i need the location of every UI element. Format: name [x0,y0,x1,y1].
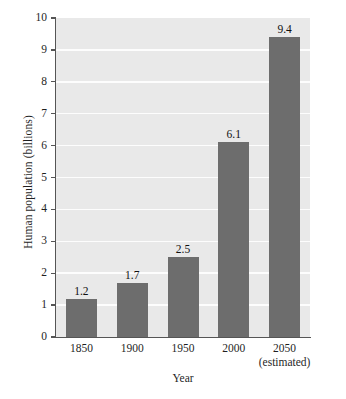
bar-value-label: 6.1 [207,128,261,140]
y-tick-label: 9 [7,44,47,56]
bar [117,283,148,337]
x-tick-label-text: 1850 [70,342,93,354]
x-tick-label-text: 2050 [273,342,296,354]
population-bar-chart-figure: Human population (billions) 012345678910… [0,0,346,399]
y-tick-label: 7 [7,108,47,120]
y-tick-label: 1 [7,299,47,311]
x-tick-label-text: 1950 [172,342,195,354]
y-tick-label: 5 [7,172,47,184]
x-axis-line [55,337,311,338]
y-tick-label: 4 [7,203,47,215]
bar [269,37,300,337]
y-tick-label: 3 [7,235,47,247]
y-tick-label: 8 [7,76,47,88]
y-tick-label: 0 [7,331,47,343]
bar [66,299,97,337]
bar [168,257,199,337]
bar-value-label: 9.4 [258,23,312,35]
y-tick-label: 6 [7,140,47,152]
x-axis-title: Year [56,372,310,384]
x-tick-label-text: 2000 [222,342,245,354]
x-tick-sublabel-text: (estimated) [250,355,320,369]
bar [218,142,249,337]
bar-value-label: 2.5 [156,243,210,255]
x-tick-label: 2050(estimated) [250,342,320,369]
y-tick-label: 2 [7,267,47,279]
bar-value-label: 1.2 [54,285,108,297]
y-tick-label: 10 [7,12,47,24]
bar-value-label: 1.7 [105,269,159,281]
x-tick-label-text: 1900 [121,342,144,354]
